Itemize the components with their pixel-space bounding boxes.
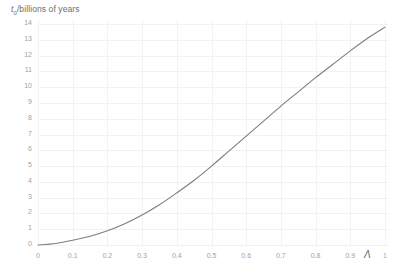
x-axis-tick-label: 0.2	[97, 252, 117, 259]
y-axis-tick-label: 4	[16, 177, 32, 184]
x-axis-tick-label: 0.7	[271, 252, 291, 259]
y-axis-units: /billions of years	[17, 4, 80, 14]
y-axis-tick-label: 1	[16, 224, 32, 231]
vertical-gridlines	[39, 20, 386, 245]
y-axis-title: t0/billions of years	[11, 4, 80, 16]
y-axis-tick-label: 3	[16, 193, 32, 200]
chart-container: t0/billions of years Λ 01234567891011121…	[0, 0, 399, 274]
y-axis-tick-label: 11	[16, 66, 32, 73]
horizontal-gridlines	[38, 25, 389, 246]
x-axis-tick-label: 0	[28, 252, 48, 259]
x-axis-tick-label: 0.6	[236, 252, 256, 259]
x-axis-title: Λ	[364, 249, 371, 260]
x-axis-tick-label: 0.1	[63, 252, 83, 259]
plot-area	[0, 0, 399, 274]
x-axis-tick-label: 0.3	[132, 252, 152, 259]
y-axis-tick-label: 12	[16, 51, 32, 58]
x-axis-tick-label: 0.8	[306, 252, 326, 259]
y-axis-tick-label: 10	[16, 82, 32, 89]
y-axis-tick-label: 0	[16, 240, 32, 247]
y-axis-tick-label: 14	[16, 19, 32, 26]
x-axis-tick-label: 0.4	[167, 252, 187, 259]
y-axis-tick-label: 9	[16, 98, 32, 105]
x-axis-tick-label: 1	[375, 252, 395, 259]
y-axis-tick-label: 2	[16, 208, 32, 215]
y-axis-tick-label: 7	[16, 130, 32, 137]
y-axis-tick-label: 6	[16, 145, 32, 152]
y-axis-tick-label: 13	[16, 35, 32, 42]
y-axis-tick-label: 5	[16, 161, 32, 168]
data-series-line	[38, 27, 385, 245]
y-axis-tick-label: 8	[16, 114, 32, 121]
x-axis-tick-label: 0.9	[340, 252, 360, 259]
x-axis-tick-label: 0.5	[202, 252, 222, 259]
